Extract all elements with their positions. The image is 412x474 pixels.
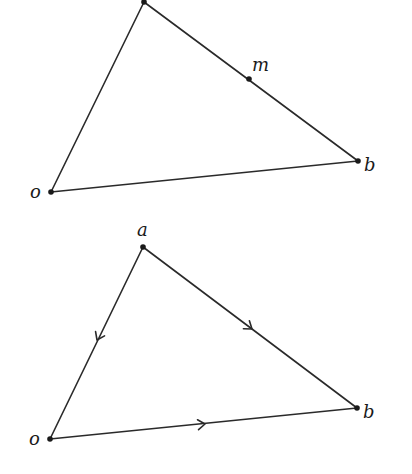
edge-o-a	[51, 2, 144, 192]
point-a	[140, 244, 146, 250]
vector-triangle-diagrams: m b o a b o	[0, 0, 412, 474]
label-b: b	[363, 401, 375, 422]
label-m: m	[252, 54, 269, 75]
point-o	[47, 436, 53, 442]
label-o: o	[30, 181, 41, 202]
point-b	[354, 405, 360, 411]
label-a: a	[137, 219, 148, 240]
edge-o-b	[51, 161, 358, 192]
edge-a-b	[143, 247, 357, 408]
edge-a-o	[50, 247, 143, 439]
point-b	[355, 158, 361, 164]
label-b: b	[364, 154, 376, 175]
label-o: o	[29, 428, 40, 449]
bottom-triangle: a b o	[29, 219, 375, 449]
top-triangle: m b o	[30, 0, 376, 202]
edge-a-b	[144, 2, 358, 161]
point-o	[48, 189, 54, 195]
point-m	[246, 76, 252, 82]
